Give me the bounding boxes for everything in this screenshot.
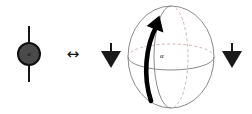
bloch-sphere: α xyxy=(127,5,215,109)
rotation-arrow-head xyxy=(146,13,168,33)
down-arrow-right-icon xyxy=(222,43,242,69)
down-arrow-right-head xyxy=(222,51,242,68)
equator-back-dashed xyxy=(128,44,214,57)
spin-disc: α xyxy=(17,42,41,66)
figure-root: α ↔ α xyxy=(0,0,252,114)
spin-token: α xyxy=(17,26,41,82)
equator-front-solid xyxy=(128,57,214,70)
equivalence-arrow-icon: ↔ xyxy=(60,46,86,62)
sphere-outline xyxy=(128,6,214,108)
bloch-angle-alpha-label: α xyxy=(160,53,164,60)
down-arrow-left-icon xyxy=(101,43,121,69)
spin-disc-alpha-label: α xyxy=(19,44,39,64)
meridian-right-dashed xyxy=(171,6,188,108)
down-arrow-left-head xyxy=(101,51,121,68)
